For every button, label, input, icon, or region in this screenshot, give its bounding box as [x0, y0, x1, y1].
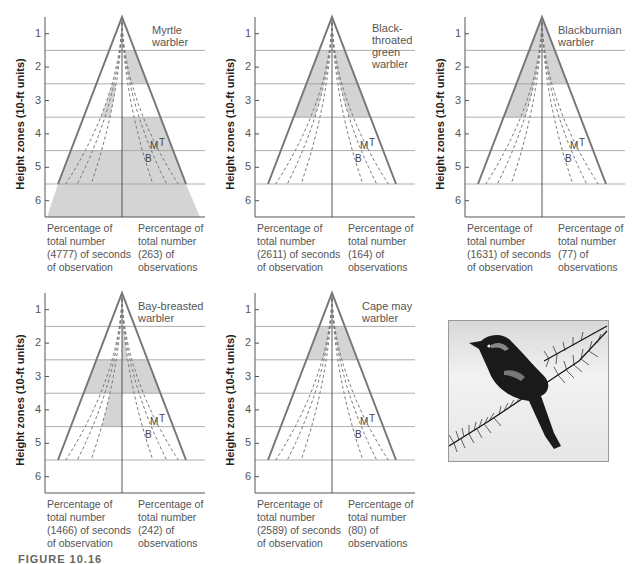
curve-label-m: M — [150, 416, 158, 427]
curve-label-m: M — [360, 140, 368, 151]
right-caption: Percentage oftotal number(164) ofobserva… — [348, 222, 413, 274]
y-tick-label: 1 — [237, 303, 251, 315]
curve-label-b: B — [355, 153, 362, 164]
curve-label-m: M — [360, 416, 368, 427]
shaded-zone — [122, 117, 173, 150]
left-caption-line: Percentage of — [257, 498, 341, 511]
left-caption: Percentage oftotal number(2589) of secon… — [257, 498, 341, 550]
right-caption: Percentage oftotal number(77) ofobservat… — [558, 222, 623, 274]
chart-panel-1: Height zones (10-ft units)123456Black-th… — [210, 0, 420, 280]
left-caption: Percentage oftotal number(1466) of secon… — [47, 498, 131, 550]
left-caption: Percentage oftotal number(4777) of secon… — [47, 222, 131, 274]
left-caption-line: of observation — [257, 537, 341, 550]
y-axis-label: Height zones (10-ft units) — [434, 44, 446, 204]
right-caption: Percentage oftotal number(80) ofobservat… — [348, 498, 413, 550]
right-caption-line: observations — [348, 261, 413, 274]
chart-panel-2: Height zones (10-ft units)123456Blackbur… — [420, 0, 630, 280]
curve-label-b: B — [565, 153, 572, 164]
y-tick-label: 6 — [237, 470, 251, 482]
y-axis-label: Height zones (10-ft units) — [224, 44, 236, 204]
left-caption-line: (2589) of seconds — [257, 524, 341, 537]
species-title: Cape maywarbler — [362, 300, 432, 324]
left-caption-line: total number — [467, 235, 551, 248]
left-caption-line: Percentage of — [47, 498, 131, 511]
left-caption-line: Percentage of — [47, 222, 131, 235]
right-caption-line: total number — [348, 235, 413, 248]
bird-silhouette-icon — [449, 321, 608, 461]
chart-panel-0: Height zones (10-ft units)123456Myrtlewa… — [0, 0, 210, 280]
chart-panel-3: Height zones (10-ft units)123456Bay-brea… — [0, 276, 210, 556]
right-caption-line: Percentage of — [138, 222, 203, 235]
species-title-line: Blackburnian — [558, 24, 628, 36]
right-caption-line: Percentage of — [558, 222, 623, 235]
y-axis-label: Height zones (10-ft units) — [14, 44, 26, 204]
y-tick-label: 6 — [447, 194, 461, 206]
right-caption-line: Percentage of — [348, 498, 413, 511]
y-tick-label: 2 — [27, 336, 41, 348]
species-title-line: warbler — [362, 312, 432, 324]
shaded-zone — [122, 151, 186, 184]
left-caption: Percentage oftotal number(2611) of secon… — [257, 222, 340, 274]
curve-label-b: B — [355, 429, 362, 440]
left-caption-line: of observation — [257, 261, 340, 274]
shaded-zone — [58, 151, 122, 184]
y-axis-label: Height zones (10-ft units) — [224, 320, 236, 480]
chart-panel-4: Height zones (10-ft units)123456Cape may… — [210, 276, 420, 556]
y-tick-label: 4 — [27, 403, 41, 415]
left-caption-line: (2611) of seconds — [257, 248, 340, 261]
shaded-zone — [101, 84, 117, 117]
curve-label-m: M — [570, 140, 578, 151]
left-caption-line: total number — [257, 235, 340, 248]
left-caption: Percentage oftotal number(1631) of secon… — [467, 222, 551, 274]
right-caption-line: total number — [348, 511, 413, 524]
y-tick-label: 4 — [237, 127, 251, 139]
y-tick-label: 1 — [27, 303, 41, 315]
y-tick-label: 3 — [447, 94, 461, 106]
right-caption: Percentage oftotal number(242) ofobserva… — [138, 498, 203, 550]
species-title-line: warbler — [138, 312, 208, 324]
right-caption-line: total number — [138, 235, 203, 248]
left-caption-line: of observation — [47, 261, 131, 274]
curve-label-t: T — [579, 137, 585, 148]
y-tick-label: 5 — [447, 160, 461, 172]
figure-caption: FIGURE 10.16 — [18, 553, 102, 564]
right-caption-line: Percentage of — [138, 498, 203, 511]
left-caption-line: (1466) of seconds — [47, 524, 131, 537]
left-caption-line: Percentage of — [467, 222, 551, 235]
left-caption-line: (4777) of seconds — [47, 248, 131, 261]
right-caption-line: (263) of — [138, 248, 203, 261]
curve-label-b: B — [145, 153, 152, 164]
species-title: Blackburnianwarbler — [558, 24, 628, 48]
y-tick-label: 1 — [237, 27, 251, 39]
right-caption-line: observations — [348, 537, 413, 550]
right-caption-line: (80) of — [348, 524, 413, 537]
right-caption-line: observations — [138, 261, 203, 274]
y-tick-label: 5 — [237, 160, 251, 172]
curve-label-t: T — [159, 137, 165, 148]
right-caption-line: observations — [558, 261, 623, 274]
y-tick-label: 2 — [447, 60, 461, 72]
y-tick-label: 2 — [237, 336, 251, 348]
right-caption: Percentage oftotal number(263) ofobserva… — [138, 222, 203, 274]
curve-label-t: T — [369, 137, 375, 148]
right-caption-line: (164) of — [348, 248, 413, 261]
y-tick-label: 4 — [27, 127, 41, 139]
shaded-zone — [102, 393, 122, 426]
right-caption-line: Percentage of — [348, 222, 413, 235]
shaded-zone — [122, 184, 200, 217]
right-caption-line: observations — [138, 537, 203, 550]
y-tick-label: 3 — [27, 94, 41, 106]
left-caption-line: of observation — [467, 261, 551, 274]
y-tick-label: 3 — [237, 94, 251, 106]
species-title-line: Bay-breasted — [138, 300, 208, 312]
left-caption-line: Percentage of — [257, 222, 340, 235]
curve-label-b: B — [145, 429, 152, 440]
warbler-photo — [448, 320, 609, 462]
species-title-line: Cape may — [362, 300, 432, 312]
left-caption-line: total number — [257, 511, 341, 524]
y-tick-label: 4 — [237, 403, 251, 415]
shaded-zone — [47, 184, 122, 217]
y-tick-label: 3 — [27, 370, 41, 382]
species-title: Bay-breastedwarbler — [138, 300, 208, 324]
right-caption-line: (242) of — [138, 524, 203, 537]
